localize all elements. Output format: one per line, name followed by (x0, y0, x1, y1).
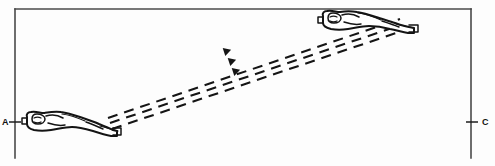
axis-label-c: C (482, 117, 489, 127)
arrowhead-upper (214, 46, 232, 59)
label-a-group: A (2, 117, 21, 127)
trajectory-line-middle (110, 26, 398, 123)
arrowhead-lower (223, 66, 241, 79)
soldier-a-figure (22, 112, 121, 136)
trajectory-line-lower (112, 33, 396, 129)
label-c-group: C (466, 117, 489, 127)
trajectory-line-upper (108, 19, 400, 118)
diagram-screenshot: A C (0, 0, 495, 166)
diagram-canvas: A C (0, 0, 495, 166)
arrowhead-middle (219, 56, 237, 69)
trajectory-lines (108, 19, 400, 129)
axis-label-a: A (2, 117, 9, 127)
